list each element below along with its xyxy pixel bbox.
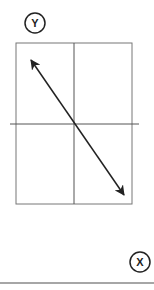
double-arrow-icon bbox=[31, 60, 124, 195]
y-axis-label: Y bbox=[31, 17, 39, 29]
y-axis-badge: Y bbox=[25, 13, 45, 33]
diagram-canvas: Y X bbox=[0, 0, 154, 290]
x-axis-label: X bbox=[136, 256, 144, 268]
x-axis-badge: X bbox=[130, 252, 150, 272]
